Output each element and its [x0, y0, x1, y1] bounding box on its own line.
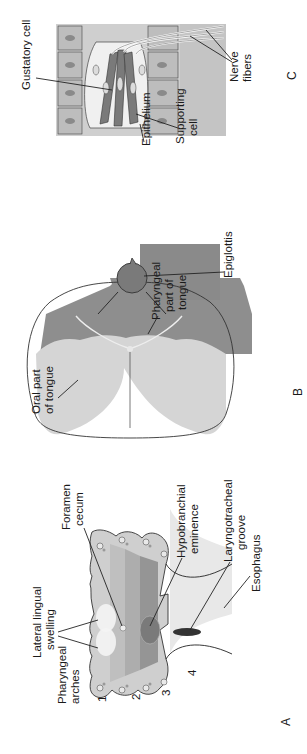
- label-supporting-cell: Supporting: [174, 88, 186, 144]
- label-hypobranchial-eminence: Hypobranchial: [175, 484, 187, 558]
- label-nerve-fibers-line2: fibers: [241, 54, 253, 82]
- label-pharyngeal-arches-line2: arches: [69, 669, 81, 704]
- label-pharyngeal-arches: Pharyngeal: [56, 646, 68, 704]
- anatomy-figure: Pharyngeal arches Lateral lingual swelli…: [0, 0, 307, 754]
- label-laryngotracheal-groove-line2: groove: [235, 515, 247, 550]
- label-pharyngeal-part-line3: tongue: [176, 275, 188, 310]
- label-lateral-lingual-swelling: Lateral lingual: [31, 586, 43, 658]
- arch-number-2: 2: [130, 694, 142, 700]
- label-laryngotracheal-groove: Laryngotracheal: [222, 480, 234, 562]
- label-nerve-fibers: Nerve: [228, 51, 240, 82]
- panel-letter-a: A: [279, 718, 293, 726]
- label-pharyngeal-part-line2: part of: [163, 279, 175, 312]
- arch-number-4: 4: [186, 669, 198, 676]
- label-foramen-cecum: Foramen: [60, 484, 72, 530]
- label-supporting-cell-line2: cell: [187, 119, 199, 136]
- label-lateral-lingual-swelling-line2: swelling: [44, 609, 56, 650]
- laryngotracheal-groove: [173, 628, 201, 636]
- label-foramen-cecum-line2: cecum: [73, 492, 85, 526]
- arch-number-3: 3: [160, 690, 172, 696]
- label-gustatory-cell: Gustatory cell: [20, 20, 32, 90]
- panel-letter-b: B: [291, 388, 305, 396]
- label-oral-part-of-tongue: Oral part: [30, 368, 42, 414]
- label-pharyngeal-part-of-tongue: Pharyngeal: [150, 262, 162, 320]
- label-hypobranchial-eminence-line2: eminence: [188, 504, 200, 554]
- label-esophagus: Esophagus: [250, 534, 262, 592]
- epiglottis: [117, 263, 147, 293]
- label-oral-part-line2: of tongue: [43, 366, 55, 414]
- arch-number-1: 1: [96, 696, 108, 702]
- panel-a-embryonic-tongue: Pharyngeal arches Lateral lingual swelli…: [31, 480, 293, 726]
- label-epiglottis: Epiglottis: [222, 231, 234, 278]
- panel-letter-c: C: [285, 71, 299, 80]
- panel-c-taste-bud: Gustatory cell Epithelium Supporting cel…: [20, 20, 299, 146]
- panel-b-adult-tongue: Oral part of tongue Pharyngeal part of t…: [27, 231, 305, 438]
- figure-rotated-stage: Pharyngeal arches Lateral lingual swelli…: [0, 0, 307, 754]
- hypobranchial-eminence: [140, 616, 160, 644]
